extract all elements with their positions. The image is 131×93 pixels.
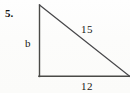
vertical-leg-label: b xyxy=(25,38,31,49)
base-label: 12 xyxy=(81,81,93,92)
hypotenuse-label: 15 xyxy=(81,24,93,35)
right-triangle-graphic xyxy=(0,0,130,93)
figure-canvas: 5. b 15 12 xyxy=(0,0,130,93)
hypotenuse-line xyxy=(40,5,131,77)
